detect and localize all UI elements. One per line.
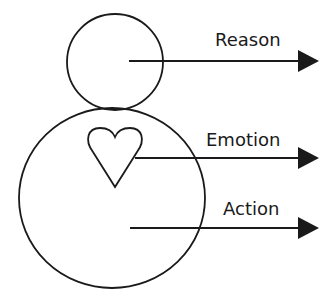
reason-label: Reason [215,29,281,50]
heart-icon [88,128,142,187]
reason-arrow: Reason [129,29,319,72]
body-circle [19,108,205,288]
action-label: Action [223,198,279,219]
head-circle [67,14,163,110]
arrowhead-icon [298,147,319,169]
reason-emotion-action-diagram: Reason Emotion Action [0,0,335,298]
arrowhead-icon [298,217,319,239]
emotion-label: Emotion [206,129,280,150]
action-arrow: Action [130,198,319,239]
arrowhead-icon [298,50,319,72]
emotion-arrow: Emotion [135,129,319,169]
